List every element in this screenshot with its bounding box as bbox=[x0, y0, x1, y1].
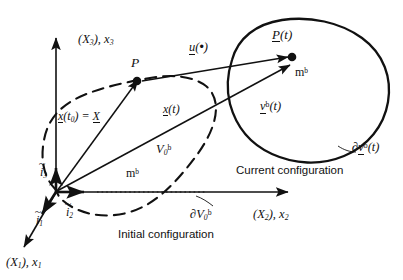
basis-label-i2: i2 bbox=[66, 206, 73, 220]
initial-boundary-label: ∂V0b bbox=[190, 208, 212, 222]
point-label-P-current: P(t) bbox=[272, 28, 292, 42]
basis-label-i3: i3 bbox=[40, 166, 47, 180]
initial-body-outline bbox=[43, 76, 216, 215]
current-position-vector-label: x(t) bbox=[163, 103, 180, 116]
basis-label-i1: i1 bbox=[36, 214, 43, 228]
basis-vector-i1 bbox=[42, 192, 56, 214]
current-mass-label: mb bbox=[295, 66, 308, 78]
point-P-initial bbox=[133, 77, 142, 86]
axis-label-x2: (X2), x2 bbox=[253, 208, 289, 222]
initial-position-vector-label: x(t0) = X bbox=[58, 110, 100, 124]
leader-initial-boundary bbox=[196, 196, 213, 206]
current-configuration-caption: Current configuration bbox=[236, 165, 343, 177]
basis-vectors bbox=[42, 168, 84, 214]
displacement-label: u(•) bbox=[189, 41, 208, 55]
initial-mass-label: mb bbox=[126, 167, 139, 179]
axis-label-x3: (X3), x3 bbox=[78, 33, 114, 47]
point-P-current bbox=[288, 53, 297, 62]
initial-volume-label: V0b bbox=[156, 143, 171, 157]
figure-canvas: (X3), x3 (X2), x2 (X1), x1 i3 i1 i2 P P(… bbox=[0, 0, 403, 280]
axis-label-x1: (X1), x1 bbox=[6, 256, 42, 270]
initial-configuration-caption: Initial configuration bbox=[118, 229, 214, 241]
point-label-P: P bbox=[131, 56, 139, 70]
current-volume-label: vb(t) bbox=[260, 100, 281, 114]
current-boundary-label: ∂vb(t) bbox=[352, 141, 379, 155]
